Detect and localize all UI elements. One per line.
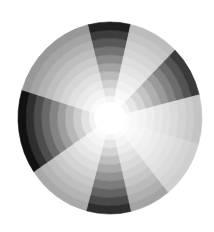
ring-segment bbox=[100, 147, 118, 156]
ring-segment bbox=[99, 71, 120, 80]
ring-segment bbox=[102, 139, 116, 148]
ring-segment bbox=[103, 88, 117, 97]
ring-segment bbox=[101, 79, 118, 88]
ring-segment bbox=[97, 63, 122, 73]
ring-segment bbox=[146, 107, 155, 131]
center-disc bbox=[94, 102, 126, 134]
grayscale-color-wheel bbox=[0, 0, 214, 232]
ring-segment bbox=[98, 155, 120, 165]
ring-segment bbox=[130, 111, 139, 127]
ring-segment bbox=[138, 109, 147, 129]
ring-segment bbox=[96, 163, 121, 173]
wheel-graphic bbox=[0, 0, 214, 232]
ring-segment bbox=[95, 55, 123, 65]
